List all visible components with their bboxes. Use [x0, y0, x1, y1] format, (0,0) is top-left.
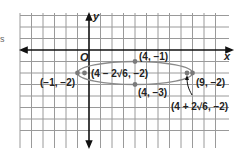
focus-left-label: (4 − 2√6, −2): [91, 68, 148, 79]
co-vertex-top-point: [133, 59, 138, 64]
y-axis-label: y: [92, 10, 100, 22]
x-axis-label: x: [223, 50, 231, 62]
co-vertex-top-label: (4, −1): [139, 51, 168, 62]
y-axis-arrow-down-icon: [87, 141, 92, 147]
vertex-left-label: (−1, −2): [40, 77, 75, 88]
edge-text-fragment: s: [0, 34, 5, 44]
vertex-left-point: [75, 71, 80, 76]
co-vertex-bottom-point: [133, 82, 138, 87]
ellipse-graph: y x O s (4, −1) (−1, −2) (4 − 2√6, −2) (…: [0, 0, 237, 156]
vertex-right-point: [190, 71, 195, 76]
focus-right-label: (4 + 2√6, −2): [171, 101, 228, 112]
origin-label: O: [80, 51, 89, 63]
vertex-right-label: (9, −2): [196, 77, 225, 88]
focus-right-point: [185, 71, 190, 76]
y-axis-arrow-up-icon: [87, 14, 92, 20]
x-axis-arrow-left-icon: [21, 48, 27, 53]
co-vertex-bottom-label: (4, −3): [138, 87, 167, 98]
focus-left-point: [82, 71, 87, 76]
